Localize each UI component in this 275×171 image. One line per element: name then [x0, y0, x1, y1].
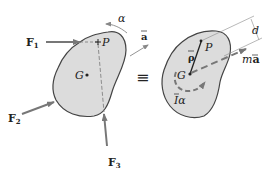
- i-alpha-label: Iα: [173, 94, 186, 107]
- label-g-right: G: [177, 69, 186, 82]
- accel-label: a: [141, 31, 148, 42]
- alpha-label: α: [118, 12, 126, 25]
- rho-label: ρ: [188, 52, 195, 63]
- right-body-shape: [162, 31, 230, 118]
- label-p-left: P: [101, 36, 110, 49]
- label-p-right: P: [204, 41, 213, 54]
- force-f2-arrow: [22, 102, 54, 114]
- right-body: d ρ P G ma Iα: [162, 16, 262, 118]
- rigid-body-diagram: P G F1 F2 F3 α a ≡ d ρ P: [0, 0, 275, 171]
- left-body-shape: [53, 32, 126, 117]
- force-f1-label: F1: [26, 36, 39, 50]
- force-f3-label: F3: [108, 156, 121, 170]
- point-g-left: [85, 73, 88, 76]
- label-g-left: G: [75, 69, 84, 82]
- accel-arrow: [130, 45, 148, 56]
- left-body: P G F1 F2 F3 α a: [8, 12, 148, 170]
- force-f3-arrow: [104, 114, 107, 146]
- d-label: d: [252, 24, 259, 37]
- equivalence-symbol: ≡: [136, 68, 149, 87]
- force-f2-label: F2: [8, 112, 21, 126]
